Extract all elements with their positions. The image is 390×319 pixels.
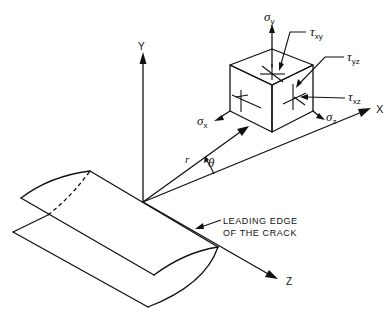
y-axis-label: Y bbox=[138, 41, 145, 52]
sigma-y-subscript: y bbox=[270, 17, 274, 26]
r-vector-arrowhead bbox=[237, 126, 249, 136]
crack-hidden-edge bbox=[48, 171, 90, 215]
crack-lower-sheet-left-edge bbox=[13, 232, 148, 307]
x-axis bbox=[143, 112, 362, 202]
sigma-x-label: σx bbox=[197, 113, 207, 130]
polar-coordinates: r θ bbox=[143, 126, 249, 202]
tau-xy-leader bbox=[281, 32, 306, 64]
r-vector bbox=[143, 130, 243, 202]
tau-yz-leader-arrowhead bbox=[296, 79, 302, 88]
tau-yz-leader bbox=[300, 57, 344, 83]
tau-xz-label: τxz bbox=[348, 89, 361, 106]
axes: Y X Z bbox=[138, 41, 384, 287]
tau-xy-label: τxy bbox=[310, 24, 323, 41]
crack-lower-sheet-back-edge bbox=[13, 215, 48, 232]
crack-upper-sheet-left-edge bbox=[21, 198, 154, 275]
tau-xz-subscript: xz bbox=[353, 97, 361, 106]
x-axis-arrowhead bbox=[358, 108, 371, 117]
crack-upper-sheet-front-curve bbox=[154, 247, 218, 275]
crack-diagram: Y X Z r θ bbox=[0, 0, 390, 319]
stress-element-cube bbox=[214, 24, 325, 132]
y-axis-arrowhead bbox=[140, 52, 147, 64]
leading-edge-leader bbox=[201, 220, 221, 227]
tau-xz-leader bbox=[306, 97, 345, 98]
sigma-z-subscript: z bbox=[332, 117, 336, 126]
r-label: r bbox=[185, 153, 190, 165]
tau-yz-label: τyz bbox=[347, 49, 360, 66]
theta-label: θ bbox=[208, 155, 215, 170]
x-axis-label: X bbox=[376, 103, 384, 115]
tau-yz-subscript: yz bbox=[352, 57, 360, 66]
left-face-shear-1 bbox=[236, 95, 248, 97]
leading-edge-label-line2: OF THE CRACK bbox=[223, 228, 297, 238]
leading-edge-annotation: LEADING EDGE OF THE CRACK bbox=[195, 216, 298, 238]
z-axis bbox=[143, 202, 270, 275]
tau-xy-leader-arrowhead bbox=[279, 62, 284, 71]
crack-surfaces bbox=[13, 171, 218, 307]
tau-xy-subscript: xy bbox=[315, 32, 323, 41]
crack-lower-sheet-front-curve bbox=[148, 247, 218, 307]
z-axis-label: Z bbox=[286, 276, 292, 287]
right-face-cross-2 bbox=[283, 93, 306, 104]
leading-edge-leader-arrowhead bbox=[195, 223, 204, 229]
sigma-y-label: σy bbox=[264, 9, 274, 26]
leading-edge-label-line1: LEADING EDGE bbox=[223, 216, 298, 226]
z-axis-arrowhead bbox=[265, 270, 278, 279]
stress-labels: σy τxy τyz τxz σx σz bbox=[197, 9, 361, 130]
sigma-x-subscript: x bbox=[203, 121, 207, 130]
cube-left-face bbox=[230, 65, 272, 132]
sigma-z-label: σz bbox=[326, 109, 336, 126]
